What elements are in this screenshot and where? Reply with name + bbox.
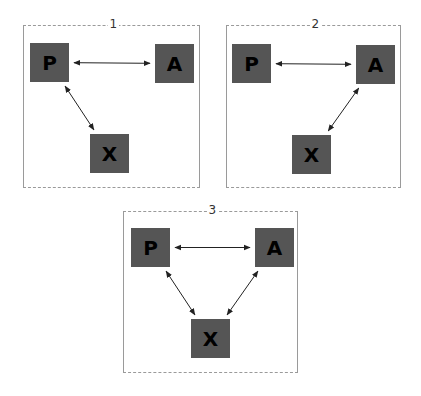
node-a: A <box>356 45 395 84</box>
panel-right-border <box>199 25 200 188</box>
node-p: P <box>131 228 170 267</box>
panel-left-border <box>123 211 124 373</box>
node-x: X <box>191 319 230 358</box>
panel-bottom-dashed-border <box>23 187 200 188</box>
panel-number-label: 2 <box>310 17 322 31</box>
panel-number-label: 1 <box>108 17 120 31</box>
panel-left-border <box>23 25 24 188</box>
node-p: P <box>30 43 69 82</box>
node-p: P <box>232 44 271 83</box>
panel-bottom-dashed-border <box>123 372 298 373</box>
node-a: A <box>155 44 194 83</box>
panel-number-label: 3 <box>207 203 219 217</box>
panel-right-border <box>297 211 298 373</box>
panel-left-border <box>226 25 227 188</box>
node-x: X <box>292 135 331 174</box>
panel-right-border <box>400 25 401 188</box>
panel-bottom-dashed-border <box>226 187 401 188</box>
node-x: X <box>90 134 129 173</box>
node-a: A <box>255 228 294 267</box>
